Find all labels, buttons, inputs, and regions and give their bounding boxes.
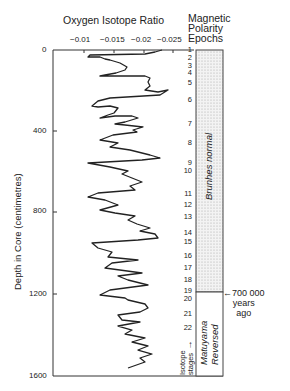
stage-16: 16 <box>178 252 192 260</box>
isotope-stages-arrow: → <box>184 341 194 350</box>
matuyama-reversed-label: Matuyama Reversed <box>198 321 220 365</box>
stage-13: 13 <box>178 213 192 221</box>
stage-17: 17 <box>178 264 192 272</box>
stage-15: 15 <box>178 238 192 246</box>
stage-18: 18 <box>178 276 192 284</box>
chart-plot <box>0 0 290 391</box>
stage-7: 7 <box>178 120 192 128</box>
stage-14: 14 <box>178 229 192 237</box>
stage-21: 21 <box>178 310 192 318</box>
stage-12: 12 <box>178 201 192 209</box>
annotation-line3: ago <box>223 308 265 318</box>
isotope-stages-label: Isotope stages <box>179 350 195 375</box>
brunhes-normal-label: Brunhes normal <box>203 133 214 200</box>
stage-6: 6 <box>178 96 192 104</box>
stage-5: 5 <box>178 79 192 87</box>
annotation-line2: years <box>223 298 265 308</box>
matuyama-line2: Reversed <box>209 321 220 365</box>
stage-22: 22 <box>178 324 192 332</box>
stage-8: 8 <box>178 139 192 147</box>
age-annotation: ←700 000 years ago <box>223 288 265 318</box>
stage-20: 20 <box>178 295 192 303</box>
isotope-label-line2: stages <box>187 350 195 375</box>
annotation-line1: ←700 000 <box>223 288 265 298</box>
matuyama-line1: Matuyama <box>198 321 209 365</box>
stage-10: 10 <box>178 167 192 175</box>
isotope-curve <box>88 50 168 368</box>
stage-4: 4 <box>178 69 192 77</box>
stage-11: 11 <box>178 190 192 198</box>
